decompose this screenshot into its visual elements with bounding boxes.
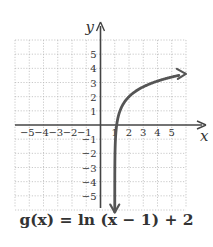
y-axis-label: y	[85, 18, 95, 36]
x-axis-label: x	[200, 127, 209, 145]
x-tick-label: 3	[140, 127, 146, 138]
y-tick-label: 4	[90, 63, 96, 74]
x-tick-label: 5	[169, 127, 175, 138]
x-tick-label: 4	[154, 127, 160, 138]
x-tick-label: −2	[63, 127, 78, 138]
y-tick-label: −1	[82, 134, 97, 145]
y-tick-label: 3	[90, 78, 96, 89]
y-tick-label: −3	[82, 163, 97, 174]
y-tick-label: 5	[90, 49, 96, 60]
function-curve	[110, 69, 186, 213]
y-tick-label: −2	[82, 148, 97, 159]
x-tick-label: −5	[20, 127, 35, 138]
y-tick-label: 1	[90, 106, 96, 117]
x-tick-label: 2	[126, 127, 132, 138]
x-tick-label: −4	[34, 127, 49, 138]
x-tick-label: −3	[48, 127, 63, 138]
y-tick-label: −4	[82, 177, 97, 188]
function-caption: g(x) = ln (x − 1) + 2	[0, 210, 213, 229]
y-tick-label: −5	[82, 191, 97, 202]
y-tick-label: 2	[90, 92, 96, 103]
